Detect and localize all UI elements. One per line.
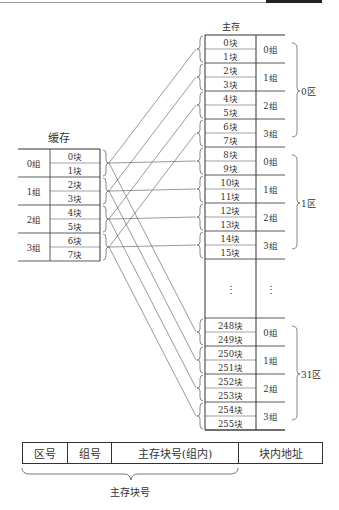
address-brace [0,0,339,510]
address-caption: 主存块号 [0,484,260,499]
